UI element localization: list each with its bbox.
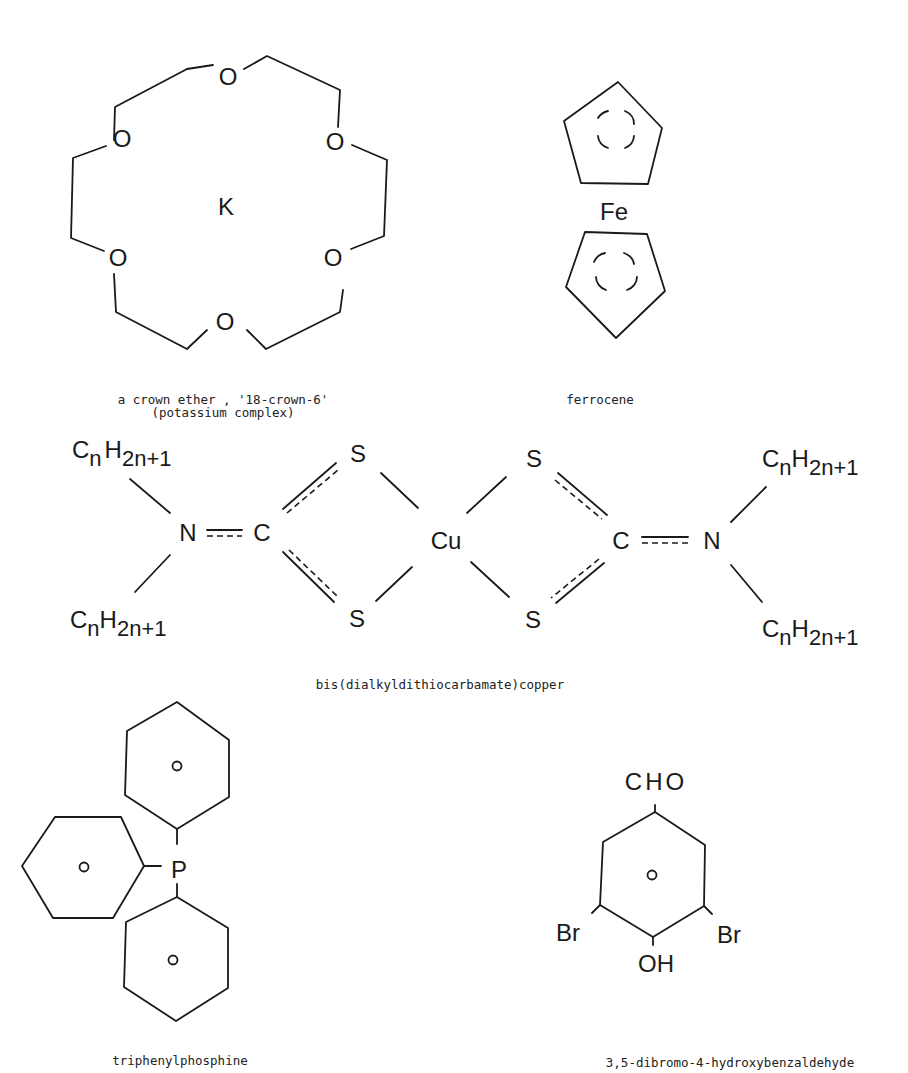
sulfur-bottom-right: S bbox=[525, 606, 541, 633]
crown-oxygen-top: O bbox=[219, 63, 238, 90]
dithiocarbamate-copper-structure: CnH2n+1 N CnH2n+1 C S S Cu S S C N bbox=[70, 436, 859, 692]
aromatic-dashed-circle-top bbox=[598, 111, 634, 148]
dibromobenzaldehyde-caption: 3,5-dibromo-4-hydroxybenzaldehyde bbox=[606, 1055, 854, 1070]
crown-oxygen-lower-left: O bbox=[109, 244, 128, 271]
aromatic-marker-bottom bbox=[169, 956, 178, 965]
aromatic-marker-left bbox=[80, 863, 89, 872]
nitrogen-right: N bbox=[703, 527, 720, 554]
phenyl-ring-left bbox=[22, 817, 144, 918]
ferrocene-structure: Fe ferrocene bbox=[564, 82, 665, 407]
copper-atom: Cu bbox=[431, 527, 462, 554]
sulfur-bottom-left: S bbox=[349, 605, 365, 632]
aldehyde-group: CHO bbox=[625, 768, 687, 795]
bromine-right: Br bbox=[717, 921, 741, 948]
crown-oxygen-lower-right: O bbox=[324, 244, 343, 271]
benzene-ring bbox=[600, 812, 705, 937]
aromatic-marker-top bbox=[173, 762, 182, 771]
cyclopentadienyl-ring-bottom bbox=[566, 232, 665, 338]
crown-oxygen-bottom: O bbox=[216, 308, 235, 335]
aromatic-dashed-circle-bottom bbox=[594, 253, 637, 290]
phenyl-ring-bottom bbox=[124, 897, 228, 1021]
phenyl-ring-top bbox=[125, 702, 229, 829]
cyclopentadienyl-ring-top bbox=[564, 82, 662, 184]
alkyl-group-top-left: CnH2n+1 bbox=[72, 436, 172, 471]
iron-atom: Fe bbox=[600, 198, 628, 225]
aromatic-marker bbox=[648, 871, 657, 880]
sulfur-top-right: S bbox=[526, 445, 542, 472]
phosphorus-atom: P bbox=[171, 856, 187, 883]
nitrogen-left: N bbox=[179, 519, 196, 546]
alkyl-group-bottom-right: CnH2n+1 bbox=[762, 615, 859, 650]
potassium-atom: K bbox=[218, 193, 234, 220]
triphenylphosphine-structure: P triphenylphosphine bbox=[22, 702, 248, 1068]
alkyl-group-top-right: CnH2n+1 bbox=[762, 445, 859, 480]
triphenylphosphine-caption: triphenylphosphine bbox=[112, 1053, 247, 1068]
sulfur-top-left: S bbox=[350, 440, 366, 467]
crown-oxygen-upper-right: O bbox=[326, 128, 345, 155]
dithiocarbamate-caption: bis(dialkyldithiocarbamate)copper bbox=[316, 677, 565, 692]
crown-oxygen-upper-left: O bbox=[113, 125, 132, 152]
ferrocene-caption: ferrocene bbox=[566, 392, 634, 407]
carbon-right: C bbox=[612, 527, 629, 554]
bromine-left: Br bbox=[556, 919, 580, 946]
figure-page: O O O O O O K a crown ether , '18-crown-… bbox=[0, 0, 908, 1073]
crown-ether-caption-line2: (potassium complex) bbox=[152, 405, 295, 420]
crown-ether-structure: O O O O O O K a crown ether , '18-crown-… bbox=[71, 56, 387, 420]
carbon-left: C bbox=[253, 519, 270, 546]
dibromohydroxybenzaldehyde-structure: CHO Br Br OH 3,5-dibromo-4-hydroxybenzal… bbox=[556, 768, 854, 1070]
hydroxyl-group: OH bbox=[638, 950, 674, 977]
alkyl-group-bottom-left: CnH2n+1 bbox=[70, 606, 167, 641]
